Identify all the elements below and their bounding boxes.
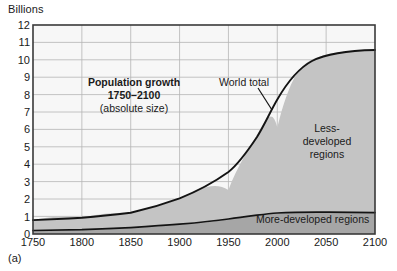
label-world-total: World total bbox=[219, 76, 269, 88]
x-axis-tick-labels: 1750 1800 1850 1900 1950 2000 2050 2100 bbox=[0, 236, 397, 256]
x-tick-2050: 2050 bbox=[314, 236, 338, 248]
x-tick-1900: 1900 bbox=[167, 236, 191, 248]
chart-title-line-2: 1750–2100 bbox=[70, 89, 198, 102]
label-less-developed-line-3: regions bbox=[288, 148, 366, 161]
population-growth-figure: Billions 12 11 10 9 8 7 6 5 4 3 2 1 0 bbox=[0, 0, 397, 271]
panel-label: (a) bbox=[8, 252, 21, 265]
x-tick-1800: 1800 bbox=[70, 236, 94, 248]
chart-inline-title: Population growth 1750–2100 (absolute si… bbox=[70, 76, 198, 115]
chart-title-line-1: Population growth bbox=[70, 76, 198, 89]
label-less-developed-regions: Less- developed regions bbox=[288, 122, 366, 161]
label-less-developed-line-2: developed bbox=[288, 135, 366, 148]
label-more-developed-regions: More-developed regions bbox=[256, 213, 369, 225]
x-tick-1750: 1750 bbox=[21, 236, 45, 248]
label-less-developed-line-1: Less- bbox=[288, 122, 366, 135]
chart-title-line-3: (absolute size) bbox=[70, 102, 198, 115]
x-tick-2100: 2100 bbox=[363, 236, 387, 248]
x-tick-1950: 1950 bbox=[216, 236, 240, 248]
x-tick-1850: 1850 bbox=[118, 236, 142, 248]
x-tick-2000: 2000 bbox=[265, 236, 289, 248]
